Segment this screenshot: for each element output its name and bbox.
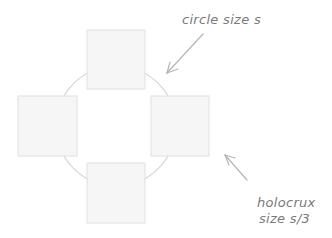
holocrux-label-line1: holocrux: [257, 195, 316, 210]
holocrux-label-line2: size s/3: [259, 211, 310, 226]
arrow-icon-circle: [167, 34, 203, 73]
square-left: [18, 96, 77, 156]
arrow-icon-holocrux: [225, 155, 247, 180]
circle-size-label: circle size s: [182, 12, 261, 27]
square-right: [151, 96, 209, 156]
square-bottom: [87, 163, 145, 223]
square-top: [87, 30, 145, 89]
